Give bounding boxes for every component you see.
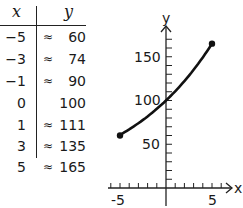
- x-axis-label: x: [234, 180, 242, 196]
- y-tick-label-150: 150: [134, 49, 161, 65]
- end-point: [209, 40, 215, 46]
- x-tick-label-5: 5: [208, 192, 217, 208]
- y-axis-label: y: [162, 10, 170, 26]
- graph: x y -5 5 50 100 150: [0, 0, 243, 208]
- y-tick-label-50: 50: [142, 136, 160, 152]
- y-tick-label-100: 100: [134, 92, 161, 108]
- x-tick-label-neg5: -5: [111, 192, 125, 208]
- start-point: [117, 132, 123, 138]
- y-ticks: [166, 39, 172, 179]
